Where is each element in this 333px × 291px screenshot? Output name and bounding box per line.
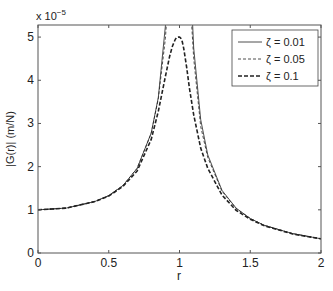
x-tick-label: 1	[176, 256, 183, 270]
y-tick-label: 3	[27, 116, 34, 130]
y-tick-label: 1	[27, 203, 34, 217]
x-tick-label: 2	[318, 256, 325, 270]
y-tick-label: 0	[27, 246, 34, 260]
y-tick-label: 4	[27, 73, 34, 87]
y-multiplier-label: x 10−5	[36, 8, 66, 22]
y-axis-label: |G(r)| (m/N)	[4, 111, 16, 167]
frequency-response-chart: 00.511.52 012345 x 10−5 r |G(r)| (m/N) ζ…	[0, 0, 333, 291]
x-tick-label: 0.5	[100, 256, 117, 270]
legend-label: ζ = 0.1	[266, 70, 299, 82]
x-tick-label: 1.5	[242, 256, 259, 270]
y-tick-label: 2	[27, 160, 34, 174]
legend-label: ζ = 0.01	[266, 36, 305, 48]
y-tick-label: 5	[27, 30, 34, 44]
legend: ζ = 0.01ζ = 0.05ζ = 0.1	[232, 30, 318, 86]
x-axis-label: r	[177, 269, 181, 283]
x-tick-label: 0	[35, 256, 42, 270]
legend-label: ζ = 0.05	[266, 53, 305, 65]
